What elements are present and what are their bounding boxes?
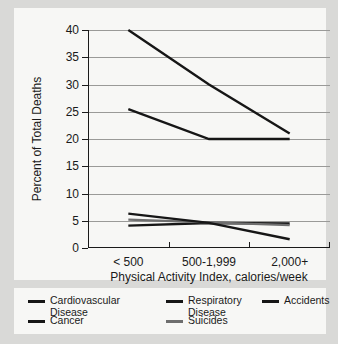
y-axis-tick-label: 5 [72,214,79,228]
y-axis-tick-label: 10 [66,187,79,201]
chart-figure: Percent of Total Deaths 0510152025303540… [0,0,338,344]
legend-swatch-icon [166,300,183,303]
legend-swatch-icon [262,300,279,303]
legend-swatch-icon [166,320,183,323]
legend-item[interactable]: Cancer [28,315,84,327]
y-axis-tick-label: 30 [66,78,79,92]
y-axis-tick-label: 40 [66,23,79,37]
legend-item[interactable]: Accidents [262,295,330,307]
y-axis-tick [82,248,88,249]
y-axis-tick-label: 15 [66,159,79,173]
x-axis-category-label: < 500 [113,255,143,269]
y-axis-tick-label: 20 [66,132,79,146]
legend-item[interactable]: Suicides [166,315,228,327]
legend: Cardiovascular DiseaseRespiratory Diseas… [14,288,326,334]
series-line [128,109,289,139]
legend-item-label: Suicides [188,315,228,327]
chart-panel: Percent of Total Deaths 0510152025303540… [14,8,326,280]
legend-item-label: Accidents [284,295,330,307]
y-axis-tick-label: 25 [66,105,79,119]
legend-swatch-icon [28,300,45,303]
legend-item-label: Cancer [50,315,84,327]
x-axis-category-label: 2,000+ [271,255,308,269]
plot-area: 0510152025303540 < 500500-1,9992,000+ [88,30,330,248]
y-axis-tick-label: 0 [72,241,79,255]
y-axis-title: Percent of Total Deaths [30,30,46,248]
x-axis-category-label: 500-1,999 [182,255,236,269]
series-lines [88,30,330,248]
x-axis-title: Physical Activity Index, calories/week [88,270,330,284]
series-line [128,214,289,240]
legend-swatch-icon [28,320,45,323]
y-axis-tick-label: 35 [66,50,79,64]
